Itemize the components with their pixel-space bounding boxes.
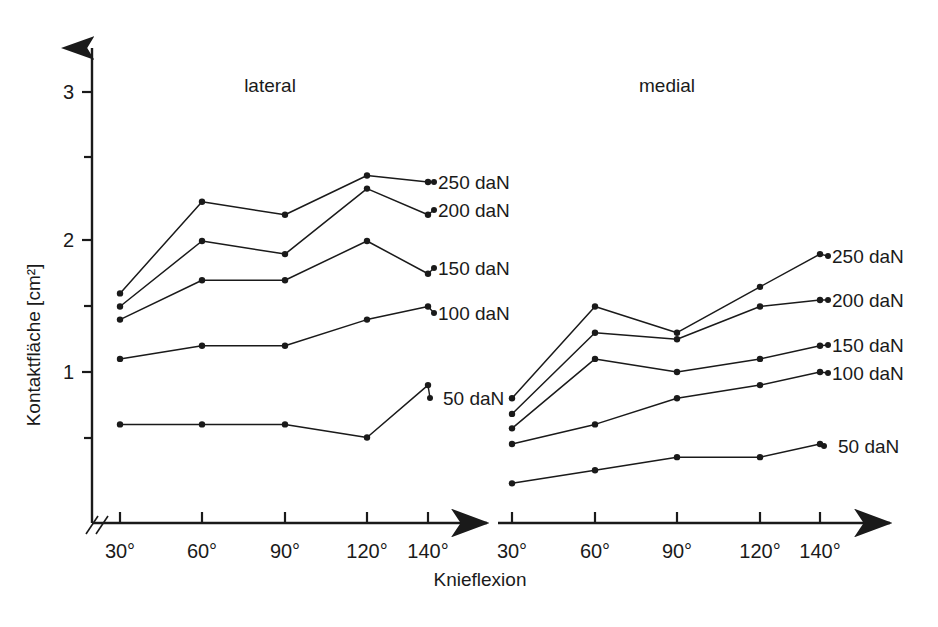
data-point: [674, 330, 680, 336]
data-point: [117, 303, 123, 309]
series-line-lateral-100-dan: [120, 307, 428, 359]
data-point: [674, 369, 680, 375]
series-label-marker-medial-1: [825, 297, 831, 303]
x-tick-label-medial-120: 120°: [739, 540, 780, 562]
data-point: [425, 382, 431, 388]
series-line-lateral-200-dan: [120, 189, 428, 307]
series-label-marker-lateral-1: [431, 207, 437, 213]
data-point: [817, 343, 823, 349]
data-point: [282, 251, 288, 257]
data-point: [199, 199, 205, 205]
x-tick-label-medial-140: 140°: [799, 540, 840, 562]
series-label-lateral-100: 100 daN: [438, 303, 510, 324]
data-point: [757, 382, 763, 388]
data-point: [509, 480, 515, 486]
data-point: [674, 395, 680, 401]
data-point: [364, 172, 370, 178]
data-point: [674, 454, 680, 460]
axis-break-marker: [86, 516, 108, 534]
data-point: [592, 330, 598, 336]
data-point: [117, 290, 123, 296]
series-label-marker-medial-3: [825, 370, 831, 376]
series-line-medial-50-dan: [512, 444, 820, 483]
data-point: [425, 303, 431, 309]
x-tick-label-lateral-90: 90°: [270, 540, 300, 562]
panel-title-medial: medial: [639, 75, 695, 96]
series-label-medial-100: 100 daN: [832, 363, 904, 384]
x-axis-lateral: 30° 60° 90° 120° 140°: [92, 512, 487, 562]
x-tick-label-lateral-60: 60°: [187, 540, 217, 562]
x-axis-medial: 30° 60° 90° 120° 140°: [497, 512, 890, 562]
y-tick-label-2: 2: [63, 229, 74, 251]
data-point: [199, 238, 205, 244]
data-point: [425, 179, 431, 185]
y-tick-label-1: 1: [63, 361, 74, 383]
x-tick-label-medial-90: 90°: [662, 540, 692, 562]
y-axis-title: Kontaktfläche [cm²]: [23, 264, 44, 427]
data-point: [364, 238, 370, 244]
data-point: [757, 454, 763, 460]
data-point: [592, 356, 598, 362]
data-point: [817, 441, 823, 447]
series-line-lateral-50-dan: [120, 385, 428, 437]
data-point: [817, 251, 823, 257]
series-line-medial-200-dan: [512, 300, 820, 414]
data-point: [117, 356, 123, 362]
x-axis-title: Knieflexion: [434, 569, 527, 590]
data-point: [425, 271, 431, 277]
data-point: [364, 185, 370, 191]
data-point: [282, 343, 288, 349]
series-label-marker-lateral-2: [431, 265, 437, 271]
data-point: [282, 421, 288, 427]
data-point: [674, 336, 680, 342]
series-label-medial-200: 200 daN: [832, 290, 904, 311]
data-point: [509, 425, 515, 431]
series-line-medial-100-dan: [512, 372, 820, 444]
series-label-marker-lateral-4: [427, 395, 433, 401]
data-point: [509, 441, 515, 447]
data-point: [757, 284, 763, 290]
data-point: [282, 277, 288, 283]
y-tick-label-3: 3: [63, 81, 74, 103]
series-labels-lateral: 250 daN 200 daN 150 daN 100 daN 50 daN: [438, 172, 510, 409]
contact-area-line-chart: 3 2 1 Kontaktfläche [cm²] 30° 60° 90° 12…: [0, 0, 938, 627]
data-point: [282, 212, 288, 218]
x-tick-label-lateral-140: 140°: [407, 540, 448, 562]
x-tick-label-lateral-30: 30°: [105, 540, 135, 562]
data-point: [509, 395, 515, 401]
data-point: [117, 316, 123, 322]
series-label-medial-250: 250 daN: [832, 246, 904, 267]
data-point: [592, 303, 598, 309]
data-point: [757, 356, 763, 362]
series-label-marker-medial-0: [825, 253, 831, 259]
data-point: [592, 467, 598, 473]
data-point: [509, 411, 515, 417]
series-line-lateral-250-dan: [120, 176, 428, 294]
series-label-medial-50: 50 daN: [838, 436, 899, 457]
figure-root: 3 2 1 Kontaktfläche [cm²] 30° 60° 90° 12…: [0, 0, 938, 627]
y-axis: 3 2 1 Kontaktfläche [cm²]: [23, 48, 92, 523]
panel-title-lateral: lateral: [244, 75, 296, 96]
x-tick-label-lateral-120: 120°: [346, 540, 387, 562]
data-point: [199, 343, 205, 349]
series-line-medial-250-dan: [512, 254, 820, 398]
data-point: [592, 421, 598, 427]
series-line-medial-150-dan: [512, 346, 820, 429]
data-point: [199, 421, 205, 427]
data-point: [364, 316, 370, 322]
data-point: [364, 434, 370, 440]
series-label-lateral-50: 50 daN: [443, 388, 504, 409]
series-label-medial-150: 150 daN: [832, 335, 904, 356]
data-point: [817, 297, 823, 303]
data-point: [199, 277, 205, 283]
data-point: [117, 421, 123, 427]
series-labels-medial: 250 daN 200 daN 150 daN 100 daN 50 daN: [832, 246, 904, 457]
series-label-marker-lateral-3: [431, 310, 437, 316]
x-tick-label-medial-30: 30°: [497, 540, 527, 562]
series-label-marker-lateral-0: [431, 179, 437, 185]
series-label-lateral-150: 150 daN: [438, 258, 510, 279]
data-point: [757, 303, 763, 309]
series-label-lateral-250: 250 daN: [438, 172, 510, 193]
series-label-marker-medial-2: [825, 342, 831, 348]
data-point: [817, 369, 823, 375]
